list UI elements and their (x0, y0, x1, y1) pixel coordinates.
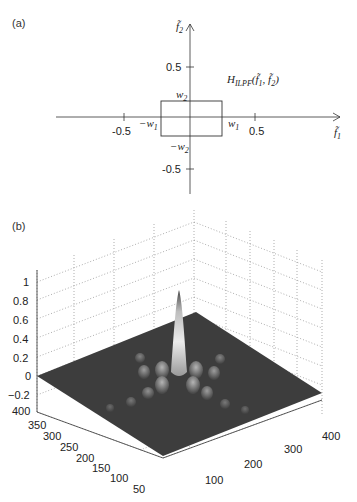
x-tick-labels: 100 200 300 400 (205, 430, 340, 486)
svg-text:300: 300 (284, 443, 302, 455)
svg-text:0.6: 0.6 (13, 314, 28, 326)
z-tick-labels: 1 0.8 0.6 0.4 0.2 0 −0.2 (8, 276, 31, 401)
svg-text:−0.2: −0.2 (8, 389, 30, 401)
svg-text:150: 150 (92, 462, 110, 474)
svg-text:0.4: 0.4 (13, 333, 28, 345)
svg-text:400: 400 (12, 405, 30, 417)
svg-text:50: 50 (133, 483, 145, 495)
svg-text:0: 0 (25, 370, 31, 382)
svg-text:400: 400 (322, 430, 340, 442)
svg-text:0.2: 0.2 (13, 352, 28, 364)
svg-text:100: 100 (110, 472, 128, 484)
svg-text:0.8: 0.8 (13, 295, 28, 307)
panel-b-label: (b) (12, 220, 25, 232)
svg-text:300: 300 (43, 430, 61, 442)
svg-text:200: 200 (244, 458, 262, 470)
svg-text:1: 1 (23, 276, 29, 288)
panel-b-surface-plot: (b) 1 0 (0, 0, 357, 502)
svg-text:100: 100 (205, 474, 223, 486)
